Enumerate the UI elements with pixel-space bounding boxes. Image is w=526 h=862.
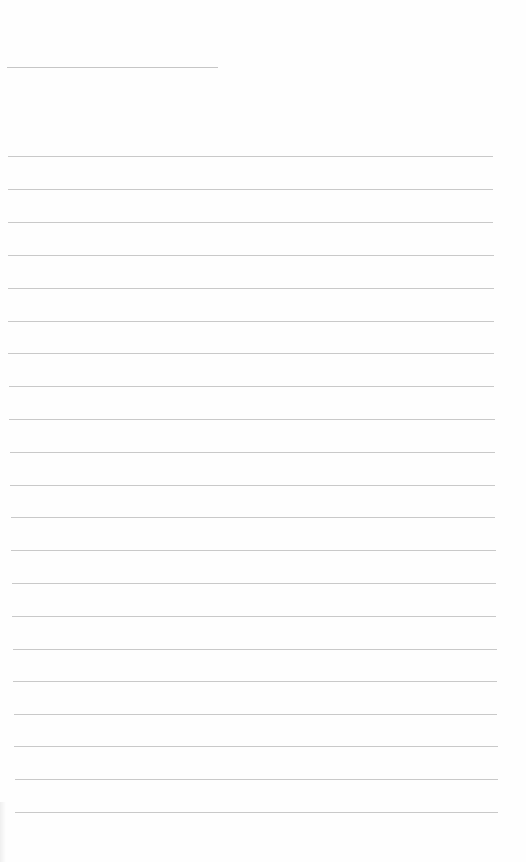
ruled-line — [14, 746, 498, 747]
ruled-line — [10, 485, 495, 486]
ruled-line — [11, 550, 496, 551]
ruled-line — [14, 714, 497, 715]
ruled-line — [9, 386, 494, 387]
ruled-line — [13, 681, 497, 682]
ruled-line — [12, 616, 496, 617]
ruled-line — [12, 583, 496, 584]
ruled-line — [8, 321, 494, 322]
ruled-line — [9, 419, 495, 420]
ruled-line — [8, 222, 493, 223]
ruled-line — [15, 812, 498, 813]
ruled-line — [8, 353, 494, 354]
ruled-line — [10, 452, 495, 453]
lined-paper-page — [0, 0, 526, 862]
ruled-line — [8, 255, 494, 256]
page-edge-shadow — [0, 802, 6, 862]
ruled-line — [8, 189, 493, 190]
ruled-line — [13, 649, 497, 650]
header-rule-line — [7, 67, 218, 68]
ruled-line — [11, 517, 495, 518]
ruled-line — [8, 288, 494, 289]
ruled-line — [8, 156, 493, 157]
ruled-line — [15, 779, 498, 780]
